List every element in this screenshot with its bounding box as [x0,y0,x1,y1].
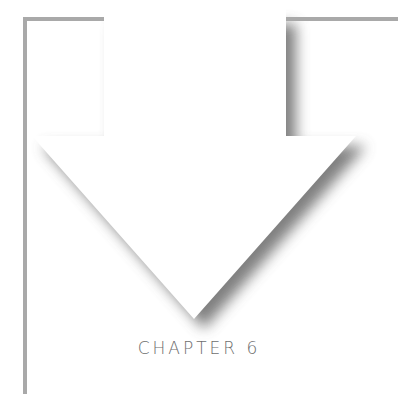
chapter-cover: CHAPTER 6 [0,0,398,394]
down-arrow-icon [0,0,398,394]
frame-top-border-left [27,17,104,21]
frame-top-border-right [286,17,398,21]
chapter-title: CHAPTER 6 [0,338,398,358]
